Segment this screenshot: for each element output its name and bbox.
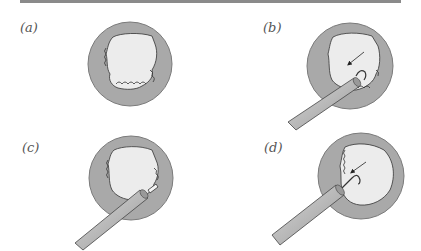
panel-c-drawing [75, 136, 173, 250]
panel-a-drawing [88, 22, 172, 106]
figure-canvas [0, 0, 421, 251]
instrument-shaft [272, 185, 344, 245]
panel-b-drawing [288, 23, 393, 130]
panel-d-drawing [272, 133, 404, 245]
